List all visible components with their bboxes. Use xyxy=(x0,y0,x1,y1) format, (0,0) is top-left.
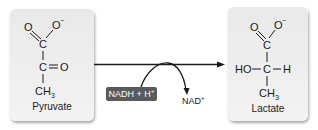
lactate-label: Lactate xyxy=(228,103,308,114)
atom-h: H xyxy=(283,63,291,75)
atom-c2: C xyxy=(263,63,271,75)
nadh-cofactor-badge: NADH + H+ xyxy=(106,87,157,101)
atom-c1: C xyxy=(263,39,271,51)
charge-minus: − xyxy=(282,17,286,24)
atom-ho: HO xyxy=(235,63,252,75)
cofactor-curve xyxy=(141,63,186,90)
nad-product-label: NAD+ xyxy=(182,96,205,106)
cofactor-arrowhead-icon xyxy=(184,88,190,95)
atom-ch3: CH3 xyxy=(259,87,279,101)
atom-o-double: O xyxy=(250,21,259,33)
arrowhead-icon xyxy=(217,62,225,68)
lactate-card: O O − C HO C H CH3 Lactate xyxy=(228,7,308,121)
